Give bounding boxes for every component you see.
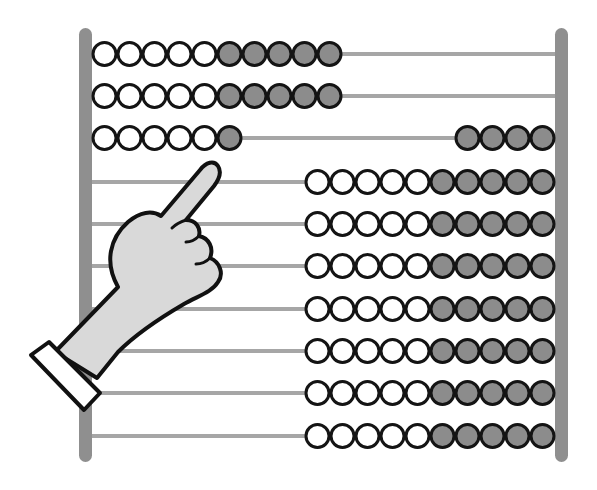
bead-white[interactable] <box>306 255 329 278</box>
bead-gray[interactable] <box>218 85 241 108</box>
bead-gray[interactable] <box>506 425 529 448</box>
bead-white[interactable] <box>118 85 141 108</box>
bead-white[interactable] <box>143 85 166 108</box>
bead-white[interactable] <box>193 127 216 150</box>
bead-gray[interactable] <box>218 43 241 66</box>
bead-gray[interactable] <box>531 340 554 363</box>
bead-white[interactable] <box>193 85 216 108</box>
bead-gray[interactable] <box>481 425 504 448</box>
bead-white[interactable] <box>406 213 429 236</box>
bead-white[interactable] <box>356 382 379 405</box>
bead-white[interactable] <box>306 213 329 236</box>
bead-gray[interactable] <box>531 255 554 278</box>
bead-white[interactable] <box>406 425 429 448</box>
bead-white[interactable] <box>381 340 404 363</box>
bead-white[interactable] <box>143 43 166 66</box>
bead-gray[interactable] <box>456 298 479 321</box>
bead-gray[interactable] <box>431 255 454 278</box>
bead-white[interactable] <box>356 425 379 448</box>
bead-gray[interactable] <box>456 425 479 448</box>
bead-white[interactable] <box>356 255 379 278</box>
bead-gray[interactable] <box>293 43 316 66</box>
bead-gray[interactable] <box>431 340 454 363</box>
bead-gray[interactable] <box>243 43 266 66</box>
bead-white[interactable] <box>93 43 116 66</box>
bead-white[interactable] <box>306 298 329 321</box>
bead-gray[interactable] <box>456 340 479 363</box>
bead-white[interactable] <box>381 382 404 405</box>
bead-gray[interactable] <box>268 43 291 66</box>
bead-gray[interactable] <box>481 127 504 150</box>
bead-white[interactable] <box>306 171 329 194</box>
bead-white[interactable] <box>93 127 116 150</box>
bead-white[interactable] <box>331 255 354 278</box>
bead-gray[interactable] <box>531 213 554 236</box>
bead-gray[interactable] <box>431 382 454 405</box>
bead-white[interactable] <box>331 298 354 321</box>
bead-gray[interactable] <box>506 213 529 236</box>
bead-white[interactable] <box>331 382 354 405</box>
bead-gray[interactable] <box>431 298 454 321</box>
bead-gray[interactable] <box>531 171 554 194</box>
bead-white[interactable] <box>306 340 329 363</box>
bead-white[interactable] <box>331 171 354 194</box>
bead-white[interactable] <box>381 298 404 321</box>
bead-white[interactable] <box>406 255 429 278</box>
bead-gray[interactable] <box>506 298 529 321</box>
bead-gray[interactable] <box>531 298 554 321</box>
bead-white[interactable] <box>143 127 166 150</box>
bead-gray[interactable] <box>293 85 316 108</box>
bead-white[interactable] <box>381 213 404 236</box>
bead-white[interactable] <box>306 425 329 448</box>
bead-white[interactable] <box>381 425 404 448</box>
bead-gray[interactable] <box>456 255 479 278</box>
bead-gray[interactable] <box>456 171 479 194</box>
bead-gray[interactable] <box>531 382 554 405</box>
bead-gray[interactable] <box>481 255 504 278</box>
bead-white[interactable] <box>406 171 429 194</box>
bead-gray[interactable] <box>318 43 341 66</box>
bead-gray[interactable] <box>243 85 266 108</box>
bead-white[interactable] <box>381 255 404 278</box>
bead-white[interactable] <box>356 171 379 194</box>
bead-gray[interactable] <box>506 171 529 194</box>
bead-white[interactable] <box>331 340 354 363</box>
bead-gray[interactable] <box>318 85 341 108</box>
bead-white[interactable] <box>168 85 191 108</box>
bead-white[interactable] <box>381 171 404 194</box>
bead-gray[interactable] <box>506 382 529 405</box>
bead-gray[interactable] <box>431 425 454 448</box>
bead-gray[interactable] <box>506 127 529 150</box>
bead-white[interactable] <box>168 127 191 150</box>
bead-white[interactable] <box>193 43 216 66</box>
bead-white[interactable] <box>118 43 141 66</box>
bead-gray[interactable] <box>431 213 454 236</box>
bead-gray[interactable] <box>481 298 504 321</box>
bead-white[interactable] <box>93 85 116 108</box>
bead-white[interactable] <box>118 127 141 150</box>
bead-white[interactable] <box>406 340 429 363</box>
bead-gray[interactable] <box>481 213 504 236</box>
bead-gray[interactable] <box>218 127 241 150</box>
bead-gray[interactable] <box>456 382 479 405</box>
bead-white[interactable] <box>356 340 379 363</box>
bead-white[interactable] <box>331 425 354 448</box>
bead-gray[interactable] <box>481 340 504 363</box>
bead-white[interactable] <box>406 298 429 321</box>
bead-gray[interactable] <box>481 382 504 405</box>
bead-gray[interactable] <box>268 85 291 108</box>
bead-gray[interactable] <box>456 127 479 150</box>
bead-white[interactable] <box>306 382 329 405</box>
bead-white[interactable] <box>406 382 429 405</box>
bead-white[interactable] <box>168 43 191 66</box>
bead-white[interactable] <box>356 298 379 321</box>
bead-gray[interactable] <box>431 171 454 194</box>
bead-gray[interactable] <box>481 171 504 194</box>
bead-gray[interactable] <box>506 340 529 363</box>
bead-gray[interactable] <box>531 425 554 448</box>
bead-white[interactable] <box>331 213 354 236</box>
bead-white[interactable] <box>356 213 379 236</box>
bead-gray[interactable] <box>531 127 554 150</box>
bead-gray[interactable] <box>456 213 479 236</box>
bead-gray[interactable] <box>506 255 529 278</box>
